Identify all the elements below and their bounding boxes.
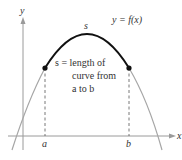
arc-label: s [84, 20, 88, 31]
annotation-line-3: a to b [72, 83, 94, 94]
point-b-dot [126, 65, 131, 70]
x-axis-arrow-icon [169, 134, 176, 139]
arc-length-figure: y x a b s y = f(x) s = length of curve f… [0, 0, 182, 160]
point-a-dot [42, 65, 47, 70]
x-axis-label: x [176, 130, 182, 141]
annotation-line-1: s = length of [55, 57, 106, 68]
y-axis-label: y [19, 5, 25, 16]
point-b-label: b [126, 138, 131, 149]
y-axis [21, 17, 26, 150]
curve-left-branch [12, 68, 45, 150]
diagram-canvas: y x a b s y = f(x) s = length of curve f… [0, 0, 182, 160]
x-axis [8, 134, 176, 139]
curve-right-branch [129, 68, 162, 150]
y-axis-arrow-icon [21, 17, 26, 24]
annotation-line-2: curve from [72, 70, 116, 81]
function-label: y = f(x) [111, 14, 143, 26]
point-a-label: a [42, 138, 47, 149]
